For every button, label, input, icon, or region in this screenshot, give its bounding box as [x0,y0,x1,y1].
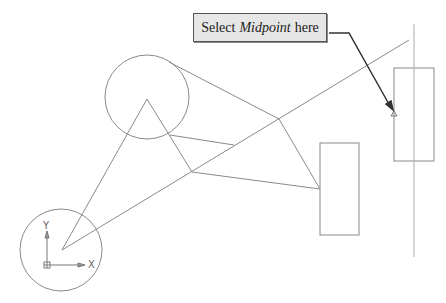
line-c[interactable] [170,135,234,145]
callout-box: Select Midpoint here [193,13,327,42]
y-axis-label: Y [43,220,49,231]
callout-suffix: here [295,20,319,36]
callout-emphasis: Midpoint [239,20,290,36]
line-d[interactable] [279,119,320,189]
callout-prefix: Select [201,20,235,36]
callout-leader [329,33,393,110]
drawing-canvas[interactable]: Y X Select Midpoint here [0,0,446,303]
drawing-geometry [0,0,446,303]
circle-upper[interactable] [105,55,189,139]
line-e[interactable] [192,172,320,189]
circle-lower[interactable] [20,209,102,291]
tangent-line[interactable] [169,62,279,119]
ucs-icon [44,231,85,268]
line-b[interactable] [147,99,192,172]
x-axis-label: X [88,259,95,270]
line-a[interactable] [62,99,147,250]
rectangle-middle[interactable] [320,143,359,235]
